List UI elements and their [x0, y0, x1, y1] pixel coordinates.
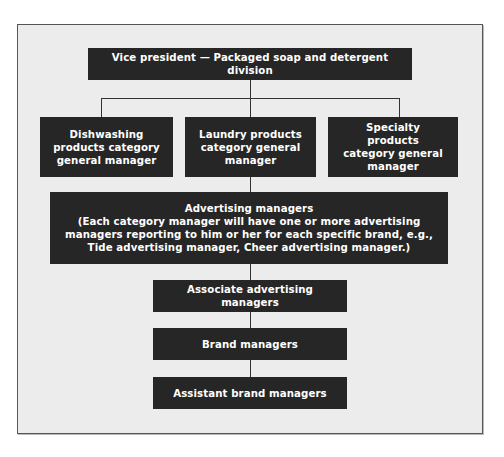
connector-brand-to-assistant	[250, 360, 251, 377]
node-label: Laundry products category general manage…	[199, 128, 302, 167]
connector-laundry-to-advertising	[250, 177, 251, 192]
connector-to-specialty	[399, 98, 400, 117]
connector-advertising-to-associate	[250, 264, 251, 280]
node-label: Dishwashing products category general ma…	[48, 128, 165, 167]
node-assistant-brand-managers: Assistant brand managers	[153, 377, 347, 409]
node-label: Vice president — Packaged soap and deter…	[92, 51, 408, 77]
node-label: Assistant brand managers	[173, 387, 327, 400]
node-associate-advertising-managers: Associate advertising managers	[153, 280, 347, 312]
node-laundry-manager: Laundry products category general manage…	[185, 117, 316, 177]
node-dishwashing-manager: Dishwashing products category general ma…	[40, 117, 173, 177]
node-specialty-manager: Specialty products category general mana…	[328, 117, 458, 177]
connector-vp-down	[250, 80, 251, 98]
connector-to-dishwashing	[101, 98, 102, 117]
node-vice-president: Vice president — Packaged soap and deter…	[88, 48, 412, 80]
node-label: Brand managers	[202, 338, 298, 351]
node-title: Advertising managers	[60, 202, 438, 215]
connector-associate-to-brand	[250, 312, 251, 328]
node-label: Specialty products category general mana…	[342, 121, 444, 173]
node-brand-managers: Brand managers	[153, 328, 347, 360]
node-label: Associate advertising managers	[157, 283, 343, 309]
connector-to-laundry	[250, 98, 251, 117]
node-note: (Each category manager will have one or …	[60, 215, 438, 254]
node-advertising-managers: Advertising managers (Each category mana…	[50, 192, 448, 264]
